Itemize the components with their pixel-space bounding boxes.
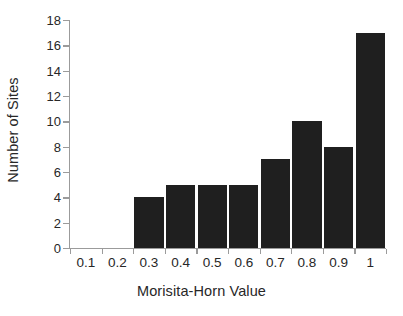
y-axis-tick-label: 18: [47, 13, 61, 28]
y-axis-tick-mark: [63, 20, 69, 21]
x-axis-tick-label: 0.6: [234, 255, 253, 270]
bar: [198, 185, 227, 248]
y-axis-tick-mark: [63, 45, 69, 46]
plot-area: [70, 20, 386, 248]
y-axis-title: Number of Sites: [5, 77, 21, 182]
x-axis-tick-label: 0.3: [140, 255, 159, 270]
y-axis-tick-mark: [63, 248, 69, 249]
y-axis-tick-label: 2: [54, 215, 61, 230]
y-axis-tick-mark: [63, 71, 69, 72]
y-axis-tick-label: 8: [54, 139, 61, 154]
y-axis-tick-label: 10: [47, 114, 61, 129]
x-axis-tick-mark: [70, 249, 71, 254]
x-axis-tick-mark: [386, 249, 387, 254]
x-axis-tick-mark: [291, 249, 292, 254]
y-axis-title-container: Number of Sites: [0, 0, 26, 260]
x-axis-tick-mark: [228, 249, 229, 254]
x-axis-tick-label: 0.9: [329, 255, 348, 270]
x-axis-tick-mark: [165, 249, 166, 254]
y-axis-tick-mark: [63, 147, 69, 148]
x-axis-tick-label: 0.4: [171, 255, 190, 270]
y-axis-tick-label: 0: [54, 241, 61, 256]
y-axis-tick-label: 14: [47, 63, 61, 78]
y-axis-tick-label: 12: [47, 89, 61, 104]
x-axis-tick-label: 0.7: [266, 255, 285, 270]
bar: [166, 185, 195, 248]
bar: [356, 33, 385, 248]
y-axis-tick-mark: [63, 172, 69, 173]
x-axis-tick-labels: 0.10.20.30.40.50.60.70.80.91: [0, 255, 403, 279]
x-axis-tick-mark: [260, 249, 261, 254]
x-axis-tick-mark: [102, 249, 103, 254]
x-axis-tick-mark: [323, 249, 324, 254]
bar-chart-figure: Number of Sites 181614121086420 0.10.20.…: [0, 0, 403, 316]
y-axis-tick-label: 4: [54, 190, 61, 205]
bar: [229, 185, 258, 248]
x-axis-tick-mark: [133, 249, 134, 254]
y-axis-tick-label: 6: [54, 165, 61, 180]
x-axis-tick-mark: [354, 249, 355, 254]
y-axis-tick-label: 16: [47, 38, 61, 53]
x-axis-title: Morisita-Horn Value: [0, 283, 403, 299]
bar: [261, 159, 290, 248]
bar: [292, 121, 321, 248]
y-axis-tick-mark: [63, 96, 69, 97]
x-axis-tick-label: 0.1: [76, 255, 95, 270]
x-axis-tick-mark: [196, 249, 197, 254]
x-axis-tick-label: 0.5: [203, 255, 222, 270]
x-axis-tick-label: 1: [366, 255, 374, 270]
y-axis-tick-mark: [63, 197, 69, 198]
y-axis-tick-mark: [63, 223, 69, 224]
x-axis-tick-label: 0.2: [108, 255, 127, 270]
x-axis-tick-label: 0.8: [298, 255, 317, 270]
bar: [324, 147, 353, 248]
bar: [134, 197, 163, 248]
y-axis-tick-mark: [63, 121, 69, 122]
